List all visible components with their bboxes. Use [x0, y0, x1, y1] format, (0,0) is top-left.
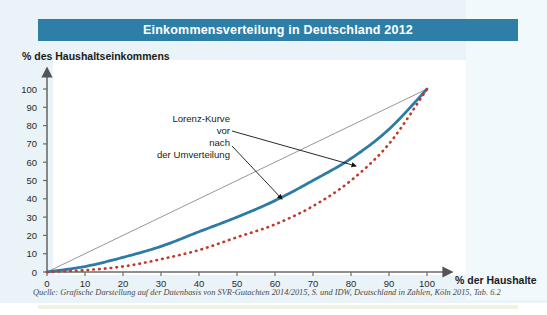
svg-text:10: 10 — [80, 278, 91, 289]
annotation-leader-lines — [232, 131, 356, 199]
annotation-line-4: der Umverteilung — [157, 149, 230, 160]
y-axis-ticks: 0 10 20 30 40 50 60 70 80 90 100 — [21, 84, 47, 278]
svg-text:60: 60 — [26, 157, 37, 168]
svg-text:30: 30 — [156, 278, 167, 289]
svg-text:50: 50 — [232, 278, 243, 289]
svg-text:70: 70 — [26, 138, 37, 149]
axis-lines — [47, 68, 452, 272]
svg-text:40: 40 — [194, 278, 205, 289]
svg-text:90: 90 — [26, 102, 37, 113]
svg-text:80: 80 — [346, 278, 357, 289]
series-equality-line — [47, 89, 427, 272]
annotation-text-block: Lorenz-Kurve vor nach der Umverteilung — [157, 113, 231, 160]
x-axis-ticks: 0 10 20 30 40 50 60 70 80 90 100 — [44, 272, 435, 289]
svg-text:90: 90 — [384, 278, 395, 289]
svg-text:100: 100 — [419, 278, 435, 289]
svg-text:80: 80 — [26, 120, 37, 131]
annotation-line-2: vor — [217, 125, 231, 136]
chart-figure: Einkommensverteilung in Deutschland 2012… — [0, 0, 547, 315]
svg-text:30: 30 — [26, 212, 37, 223]
svg-text:20: 20 — [26, 230, 37, 241]
chart-svg: 0 10 20 30 40 50 60 70 80 90 100 0 — [0, 0, 547, 315]
svg-text:100: 100 — [21, 84, 37, 95]
annotation-line-3: nach — [209, 137, 230, 148]
svg-text:0: 0 — [32, 267, 37, 278]
svg-text:60: 60 — [270, 278, 281, 289]
svg-text:40: 40 — [26, 193, 37, 204]
svg-text:10: 10 — [26, 248, 37, 259]
svg-text:70: 70 — [308, 278, 319, 289]
annotation-line-1: Lorenz-Kurve — [172, 113, 230, 124]
svg-text:50: 50 — [26, 175, 37, 186]
svg-text:20: 20 — [118, 278, 129, 289]
svg-text:0: 0 — [44, 278, 49, 289]
